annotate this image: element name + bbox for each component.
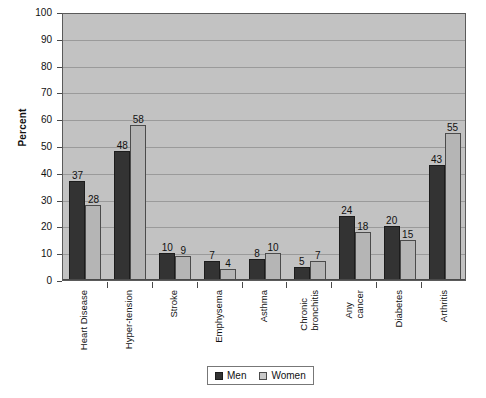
- bar-men: [114, 151, 130, 280]
- x-axis-tick-mark: [376, 282, 377, 288]
- category-label-text: Heart Disease: [79, 290, 90, 350]
- x-axis-tick-mark: [286, 282, 287, 288]
- y-axis-tick-label: 60: [8, 115, 52, 125]
- bar-value-label: 10: [260, 242, 286, 253]
- category-label-text: Diabetes: [393, 290, 404, 328]
- category-label-text: Arthritis: [438, 290, 449, 322]
- bar-men: [429, 165, 445, 280]
- legend-swatch-women-icon: [259, 372, 267, 380]
- bar-value-label: 7: [305, 250, 331, 261]
- y-axis-title: Percent: [17, 88, 28, 168]
- bar-women: [355, 232, 371, 280]
- category-label-text: Stroke: [169, 290, 180, 317]
- bar-value-label: 24: [334, 205, 360, 216]
- y-axis-tick-label: 50: [8, 142, 52, 152]
- x-axis-tick-mark: [242, 282, 243, 288]
- legend-swatch-men-icon: [215, 372, 223, 380]
- bar-value-label: 58: [125, 114, 151, 125]
- category-label-text: Hyper-tension: [124, 290, 135, 349]
- bar-women: [175, 256, 191, 280]
- x-axis-tick-mark: [152, 282, 153, 288]
- chart-root: Percent 0102030405060708090100 372848581…: [0, 0, 486, 398]
- bar-men: [249, 259, 265, 280]
- x-axis-tick-mark: [421, 282, 422, 288]
- y-axis-tick-label: 70: [8, 88, 52, 98]
- bar-women: [310, 261, 326, 280]
- x-axis-line: [63, 279, 465, 280]
- y-axis-tick-label: 30: [8, 196, 52, 206]
- x-axis-tick-mark: [197, 282, 198, 288]
- category-label-text: Asthma: [259, 290, 270, 322]
- category-label-text: Anycancer: [343, 290, 364, 319]
- bar-men: [294, 267, 310, 280]
- x-axis-tick-mark: [107, 282, 108, 288]
- category-label-text: Chronicbronchitis: [298, 290, 319, 331]
- bar-women: [130, 125, 146, 280]
- y-axis-tick-label: 80: [8, 62, 52, 72]
- bar-value-label: 20: [379, 215, 405, 226]
- bar-women: [400, 240, 416, 280]
- legend-label-women: Women: [271, 371, 305, 381]
- bar-value-label: 28: [80, 194, 106, 205]
- y-axis-tick-label: 100: [8, 8, 52, 18]
- plot-area: 372848581097481057241820154355: [62, 13, 466, 281]
- y-axis-tick-label: 20: [8, 222, 52, 232]
- legend-item-women[interactable]: Women: [259, 371, 305, 381]
- legend-item-men[interactable]: Men: [215, 371, 246, 381]
- bar-value-label: 37: [64, 170, 90, 181]
- bar-value-label: 9: [170, 245, 196, 256]
- bar-value-label: 18: [350, 221, 376, 232]
- chart-legend: Men Women: [207, 366, 314, 385]
- y-axis-tick-label: 0: [8, 276, 52, 286]
- y-axis-tick-label: 90: [8, 35, 52, 45]
- bar-value-label: 55: [440, 122, 466, 133]
- bar-value-label: 4: [215, 258, 241, 269]
- bar-men: [159, 253, 175, 280]
- bar-women: [445, 133, 461, 280]
- bar-women: [85, 205, 101, 280]
- bar-women: [265, 253, 281, 280]
- y-axis-tick-mark: [57, 281, 62, 282]
- legend-label-men: Men: [227, 371, 246, 381]
- y-axis-tick-label: 10: [8, 249, 52, 259]
- x-axis-tick-mark: [331, 282, 332, 288]
- gridline: [63, 40, 465, 41]
- gridline: [63, 120, 465, 121]
- category-label-text: Emphysema: [214, 290, 225, 343]
- y-axis-tick-label: 40: [8, 169, 52, 179]
- gridline: [63, 93, 465, 94]
- bar-value-label: 15: [395, 229, 421, 240]
- gridline: [63, 67, 465, 68]
